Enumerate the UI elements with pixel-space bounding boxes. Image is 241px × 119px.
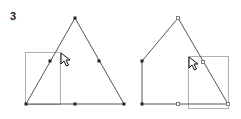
mouse-cursor-icon	[189, 57, 198, 70]
selection-rectangle	[26, 53, 61, 105]
shape-outline[interactable]	[26, 18, 124, 104]
diagram-canvas	[0, 0, 241, 119]
hollow-vertex-handle[interactable]	[177, 103, 180, 106]
figure-before	[25, 17, 126, 106]
figure-after	[141, 17, 230, 109]
shape-outline[interactable]	[142, 18, 228, 104]
hollow-vertex-handle[interactable]	[227, 103, 230, 106]
vertex-handle[interactable]	[141, 103, 144, 106]
vertex-handle[interactable]	[141, 60, 144, 63]
vertex-handle[interactable]	[123, 103, 126, 106]
vertex-handle[interactable]	[49, 60, 52, 63]
hollow-vertex-handle[interactable]	[177, 17, 180, 20]
vertex-handle[interactable]	[74, 17, 77, 20]
vertex-handle[interactable]	[98, 60, 101, 63]
hollow-vertex-handle[interactable]	[202, 61, 205, 64]
vertex-handle[interactable]	[25, 103, 28, 106]
vertex-handle[interactable]	[74, 103, 77, 106]
mouse-cursor-icon	[61, 53, 70, 66]
